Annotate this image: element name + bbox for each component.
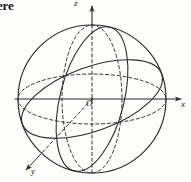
origin-label: O: [86, 99, 93, 108]
figure-title-fragment: ere: [0, 0, 29, 13]
x-axis-label: x: [181, 100, 185, 109]
sphere-diagram: ere z x y O: [0, 0, 191, 182]
y-axis-inner: [40, 99, 92, 155]
y-axis-label: y: [31, 167, 35, 176]
diagram-canvas: [0, 0, 191, 182]
z-axis-label: z: [74, 0, 78, 8]
